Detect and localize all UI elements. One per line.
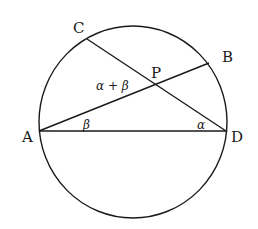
geometry-diagram: C B P A D α + β β α bbox=[0, 0, 258, 229]
label-point-d: D bbox=[231, 128, 243, 146]
label-angle-a: β bbox=[82, 118, 90, 132]
label-angle-p: α + β bbox=[96, 79, 129, 93]
label-point-b: B bbox=[222, 48, 233, 66]
chord-ab bbox=[39, 63, 209, 131]
label-point-a: A bbox=[21, 128, 33, 146]
label-angle-d: α bbox=[197, 118, 205, 132]
label-point-c: C bbox=[73, 19, 84, 37]
label-point-p: P bbox=[151, 64, 161, 82]
